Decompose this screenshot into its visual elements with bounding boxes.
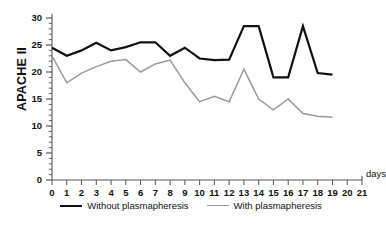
chart-axes xyxy=(52,14,362,180)
legend-label-without-plasmapheresis: Without plasmapheresis xyxy=(87,201,188,211)
legend-label-with-plasmapheresis: With plasmapheresis xyxy=(234,201,322,211)
legend-line-icon-black xyxy=(60,205,82,207)
legend-item-with-plasmapheresis: With plasmapheresis xyxy=(207,201,322,211)
legend-line-icon-gray xyxy=(207,205,229,206)
series-line-without-plasmapheresis xyxy=(52,26,332,77)
chart-legend: Without plasmapheresis With plasmapheres… xyxy=(0,201,382,211)
series-line-with-plasmapheresis xyxy=(52,56,332,118)
legend-item-without-plasmapheresis: Without plasmapheresis xyxy=(60,201,188,211)
chart-ticks xyxy=(46,18,362,185)
